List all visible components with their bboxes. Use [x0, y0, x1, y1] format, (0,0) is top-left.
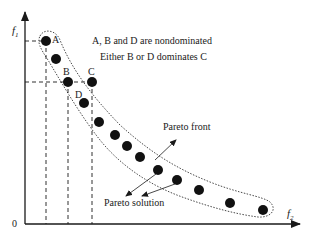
dashed-guides: [25, 41, 92, 224]
pareto-solution-label: Pareto solution: [104, 197, 164, 208]
point-14: [258, 205, 268, 215]
point-13: [225, 198, 235, 208]
y-axis-label: f1: [12, 24, 19, 39]
pareto-front-label: Pareto front: [163, 121, 211, 132]
point-6: [94, 117, 104, 127]
label-b: B: [63, 66, 70, 77]
point-2: [51, 54, 61, 64]
label-c: C: [88, 66, 95, 77]
point-11: [172, 175, 182, 185]
point-7: [110, 130, 120, 140]
point-8: [122, 141, 132, 151]
pareto-points: [41, 36, 268, 215]
point-b: [63, 77, 73, 87]
point-12: [194, 185, 204, 195]
pareto-front-arrow: [155, 140, 176, 160]
annotation-nondominated: A, B and D are nondominated: [92, 35, 212, 46]
x-axis-label: f2: [287, 207, 294, 222]
point-a: [41, 36, 51, 46]
label-a: A: [52, 34, 60, 45]
pareto-diagram: f1 f2 0 A B C D A, B and D are nondomina…: [0, 0, 315, 239]
point-9: [135, 152, 145, 162]
point-c: [87, 77, 97, 87]
annotation-dominates: Either B or D dominates C: [100, 51, 207, 62]
pareto-solution-arrow-2: [142, 184, 175, 196]
point-10: [153, 165, 163, 175]
origin-label: 0: [12, 218, 17, 229]
label-d: D: [75, 89, 82, 100]
